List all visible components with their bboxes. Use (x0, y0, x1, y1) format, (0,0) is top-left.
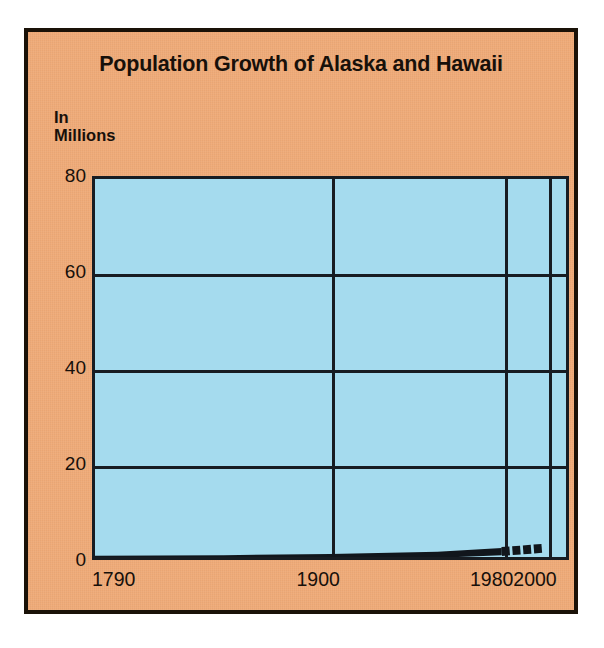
gridline-horizontal (95, 466, 566, 469)
chart-figure: Population Growth of Alaska and Hawaii I… (24, 28, 578, 614)
gridline-horizontal (95, 370, 566, 373)
gridline-horizontal (95, 274, 566, 277)
series-line-projected-dash (534, 548, 542, 549)
chart-title: Population Growth of Alaska and Hawaii (28, 52, 574, 77)
gridline-vertical (549, 179, 552, 557)
series-line-actual (95, 548, 502, 557)
x-axis-tick: 1900 (297, 568, 340, 591)
x-axis-tick: 1790 (92, 568, 135, 591)
y-axis-label-line2: Millions (54, 126, 115, 144)
gridline-vertical (332, 179, 335, 557)
y-axis-tick: 60 (28, 261, 86, 283)
y-axis-tick-labels: 806040200 (28, 176, 86, 560)
gridline-vertical (505, 179, 508, 557)
x-axis-tick: 1980 (470, 568, 513, 591)
plot-inner (95, 179, 566, 557)
x-axis-tick: 2000 (513, 568, 556, 591)
series-line-projected-dash (523, 549, 531, 550)
y-axis-tick: 40 (28, 357, 86, 379)
data-series-layer (95, 179, 566, 557)
y-axis-tick: 80 (28, 165, 86, 187)
y-axis-tick: 20 (28, 453, 86, 475)
y-axis-label: In Millions (54, 108, 115, 145)
series-line-projected-dash (512, 550, 520, 551)
y-axis-label-line1: In (54, 108, 115, 126)
x-axis-tick-labels: 1790190019802000 (92, 568, 569, 608)
y-axis-tick: 0 (28, 549, 86, 571)
plot-area (92, 176, 569, 560)
